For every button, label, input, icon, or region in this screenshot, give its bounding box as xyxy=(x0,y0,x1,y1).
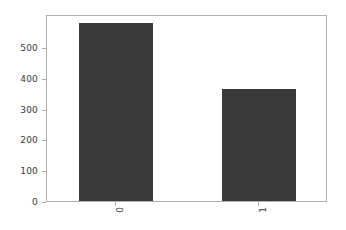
y-tick-label-500: 500 xyxy=(20,43,38,53)
x-tick-mark-0 xyxy=(115,202,116,206)
y-tick-label-200: 200 xyxy=(20,135,38,145)
y-tick-label-400: 400 xyxy=(20,74,38,84)
y-tick-mark-0 xyxy=(42,202,46,203)
bar-chart-figure: 0 100 200 300 400 500 0 1 xyxy=(0,0,346,230)
x-tick-label-1: 1 xyxy=(258,207,268,213)
y-tick-label-100: 100 xyxy=(20,166,38,176)
y-axis-tick-labels: 0 100 200 300 400 500 xyxy=(0,0,38,230)
bar-category-0 xyxy=(79,23,153,201)
bar-category-1 xyxy=(222,89,296,201)
x-tick-mark-1 xyxy=(258,202,259,206)
plot-area xyxy=(46,15,327,202)
x-tick-label-0: 0 xyxy=(115,207,125,213)
y-tick-label-0: 0 xyxy=(32,197,38,207)
y-tick-label-300: 300 xyxy=(20,105,38,115)
